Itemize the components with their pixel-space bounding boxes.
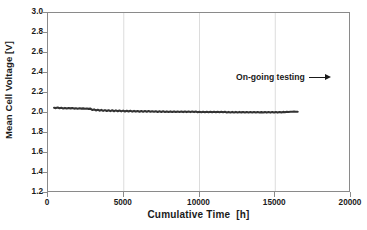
- y-tick-label: 2.2: [21, 88, 43, 96]
- x-tick-mark: [123, 192, 124, 197]
- x-tick-mark: [199, 192, 200, 197]
- y-tick-label: 1.6: [21, 148, 43, 156]
- x-tick-mark: [47, 192, 48, 197]
- chart-figure: Mean Cell Voltage [V] 1.21.41.61.82.02.2…: [0, 0, 367, 230]
- gridline-group: [124, 13, 276, 192]
- x-tick-label: 20000: [320, 198, 367, 207]
- y-tick-mark: [42, 32, 47, 33]
- x-axis-title: Cumulative Time [h]: [47, 209, 350, 220]
- x-tick-label: 0: [17, 198, 77, 207]
- y-tick-label: 2.8: [21, 28, 43, 36]
- x-tick-mark: [350, 192, 351, 197]
- right-arrow-icon: [309, 73, 331, 81]
- annotation-ongoing-testing: On-going testing: [236, 72, 331, 82]
- y-tick-mark: [42, 152, 47, 153]
- y-axis-title: Mean Cell Voltage [V]: [2, 0, 16, 190]
- y-tick-mark: [42, 72, 47, 73]
- series-line-mean-cell-voltage: [54, 108, 298, 113]
- y-tick-mark: [42, 12, 47, 13]
- y-tick-mark: [42, 92, 47, 93]
- y-tick-label: 2.0: [21, 108, 43, 116]
- y-tick-mark: [42, 172, 47, 173]
- x-tick-label: 10000: [169, 198, 229, 207]
- data-series-layer: [48, 13, 350, 192]
- y-tick-mark: [42, 112, 47, 113]
- x-tick-mark: [274, 192, 275, 197]
- y-tick-label: 2.4: [21, 68, 43, 76]
- y-tick-label: 1.8: [21, 128, 43, 136]
- plot-area: [47, 12, 350, 192]
- y-tick-label: 1.4: [21, 168, 43, 176]
- y-tick-label-group: 1.21.41.61.82.02.22.42.62.83.0: [19, 0, 43, 230]
- x-tick-label: 15000: [244, 198, 304, 207]
- y-tick-mark: [42, 52, 47, 53]
- y-tick-label: 3.0: [21, 8, 43, 16]
- y-tick-label: 1.2: [21, 188, 43, 196]
- y-tick-label: 2.6: [21, 48, 43, 56]
- annotation-label: On-going testing: [236, 72, 305, 82]
- y-tick-mark: [42, 132, 47, 133]
- x-tick-label: 5000: [93, 198, 153, 207]
